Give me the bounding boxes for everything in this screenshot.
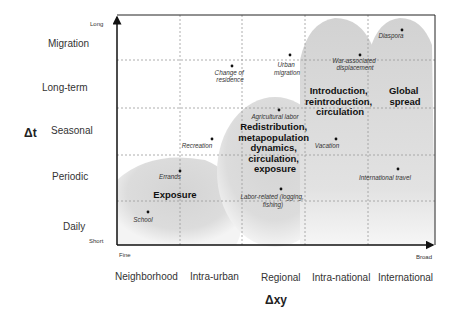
y-cat-label: Long-term (42, 82, 88, 93)
point-label-international-travel: International travel (359, 174, 411, 181)
y-cat-label: Daily (63, 221, 85, 232)
y-low-label: Short (89, 238, 104, 244)
point-label-change-of-residence: Change of residence (215, 69, 246, 83)
point-dot (397, 168, 400, 171)
x-axis-title: Δxy (265, 293, 287, 307)
y-cat-label: Periodic (52, 171, 88, 182)
zone-global-shape (370, 18, 435, 245)
point-label-school: School (133, 216, 153, 223)
point-dot (401, 29, 404, 32)
point-dot (231, 65, 234, 68)
mobility-diagram: Long Short Fine Broad Migration Long-ter… (0, 0, 454, 315)
point-dot (278, 109, 281, 112)
y-cat-label: Seasonal (51, 125, 93, 136)
y-cat-label: Migration (48, 38, 89, 49)
point-dot (211, 138, 214, 141)
point-dot (359, 54, 362, 57)
point-dot (147, 211, 150, 214)
x-low-label: Fine (119, 252, 131, 258)
x-cat-label: Intra-national (312, 272, 370, 283)
x-cat-label: Neighborhood (115, 271, 178, 282)
x-category-labels: Neighborhood Intra-urban Regional Intra-… (115, 271, 433, 283)
x-cat-label: Regional (261, 272, 300, 283)
zone-label-global: Global spread (389, 85, 421, 107)
point-label-war-displacement: War-associated displacement (332, 57, 377, 72)
point-label-urban-migration: Urban migration (274, 61, 300, 77)
x-cat-label: Intra-urban (190, 271, 239, 282)
point-dot (280, 188, 283, 191)
point-dot (289, 54, 292, 57)
y-axis-title: Δt (24, 126, 37, 140)
point-label-errands: Errands (159, 173, 182, 180)
zone-introduction-shape (300, 18, 382, 245)
x-high-label: Broad (416, 254, 432, 260)
point-label-agricultural-labor: Agricultural labor (250, 113, 299, 121)
zone-label-exposure: Exposure (153, 189, 196, 200)
x-cat-label: International (378, 272, 433, 283)
y-high-label: Long (90, 21, 103, 27)
point-label-vacation: Vacation (315, 142, 340, 149)
point-dot (179, 170, 182, 173)
point-label-diaspora: Diaspora (378, 32, 404, 40)
y-category-labels: Migration Long-term Seasonal Periodic Da… (42, 38, 93, 232)
point-label-recreation: Recreation (182, 142, 213, 149)
point-dot (335, 138, 338, 141)
